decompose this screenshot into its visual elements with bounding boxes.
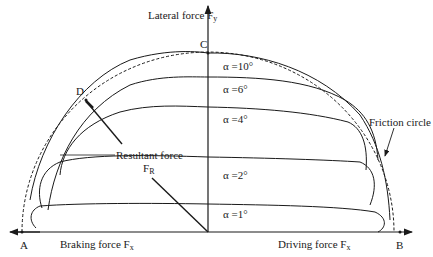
point-a-label: A [20, 240, 28, 251]
point-d-label: D [76, 86, 84, 97]
alpha-4-label: α =4° [223, 114, 248, 125]
point-c-label: C [200, 39, 207, 50]
friction-circle-pointer [385, 128, 394, 156]
lateral-force-label: Lateral force Fy [148, 10, 217, 23]
curve-alpha-2 [39, 156, 374, 208]
point-a-marker [21, 231, 24, 234]
alpha-10-label: α =10° [223, 61, 253, 72]
resultant-force-label: Resultant force [116, 150, 183, 161]
point-b-label: B [396, 240, 403, 251]
friction-circle-diagram: Lateral force Fy Braking force Fx Drivin… [0, 0, 433, 257]
curve-alpha-6 [48, 77, 378, 210]
alpha-1-label: α =1° [223, 209, 248, 220]
driving-force-label: Driving force Fx [278, 239, 350, 252]
friction-circle-label: Friction circle [369, 117, 431, 128]
point-c-marker [207, 52, 210, 55]
diagram-canvas [0, 0, 433, 257]
resultant-force-vector [152, 178, 208, 232]
point-d-marker [85, 99, 88, 102]
point-b-marker [399, 231, 402, 234]
braking-force-label: Braking force Fx [60, 239, 134, 252]
alpha-2-label: α =2° [223, 170, 248, 181]
alpha-6-label: α =6° [223, 84, 248, 95]
resultant-force-symbol: FR [143, 163, 154, 176]
curve-alpha-4 [60, 106, 366, 175]
